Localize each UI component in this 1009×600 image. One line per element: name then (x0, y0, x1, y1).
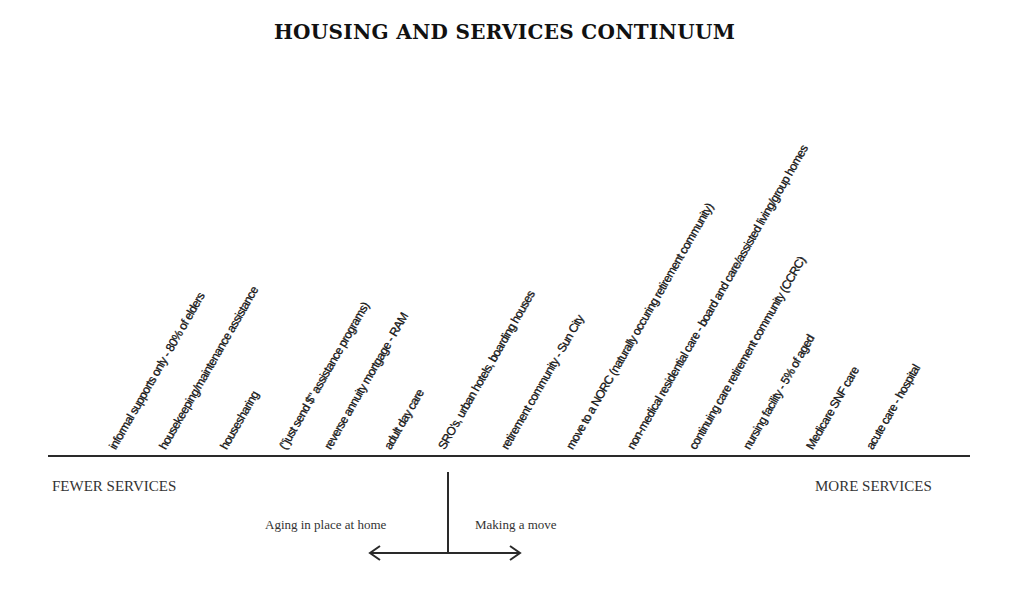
continuum-item-label: housekeeping/maintenance assistance (157, 285, 261, 452)
aging-in-place-label: Aging in place at home (265, 517, 386, 533)
making-a-move-label: Making a move (475, 517, 557, 533)
continuum-item-label: acute care - hospital (864, 363, 923, 452)
continuum-item-label: housesharing (218, 389, 262, 452)
more-services-label: MORE SERVICES (815, 478, 932, 495)
fewer-services-label: FEWER SERVICES (52, 478, 176, 495)
continuum-item-label: ("just send $" assistance programs) (277, 300, 372, 452)
continuum-item-label: continuing care retirement community (CC… (687, 255, 808, 452)
continuum-item-label: informal supports only - 80% of elders (107, 291, 208, 452)
continuum-axis-line (48, 455, 970, 457)
diagram-title: HOUSING AND SERVICES CONTINUUM (0, 20, 1009, 44)
continuum-item-label: adult day care (382, 387, 427, 452)
continuum-item-label: Medicare SNF care (804, 365, 862, 452)
bidirectional-arrow-icon (360, 540, 530, 570)
